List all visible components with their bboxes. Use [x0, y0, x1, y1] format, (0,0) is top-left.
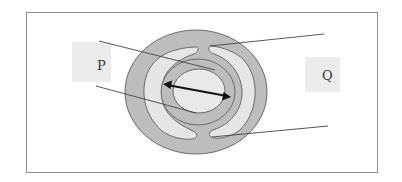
label-p: P: [97, 58, 106, 73]
label-q: Q: [322, 68, 333, 83]
diagram-canvas: P Q: [0, 0, 402, 182]
